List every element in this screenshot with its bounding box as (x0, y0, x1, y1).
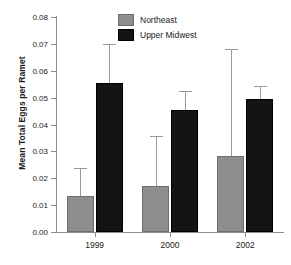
legend-item-northeast: Northeast (118, 14, 197, 26)
x-tick-label-2000: 2000 (140, 240, 200, 250)
y-tick-label: 0.02 (2, 174, 48, 183)
error-bar-cap (103, 44, 116, 45)
error-bar-cap (150, 136, 163, 137)
y-tick (51, 232, 57, 233)
x-tick-label-2002: 2002 (215, 240, 275, 250)
error-bar-cap (225, 49, 238, 50)
error-bar-line (156, 136, 157, 186)
bar-upper-midwest-1999 (96, 83, 123, 232)
y-tick-label: 0.07 (2, 39, 48, 48)
error-bar-cap (254, 86, 267, 87)
y-tick-label: 0.00 (2, 228, 48, 237)
bar-northeast-2000 (142, 186, 169, 232)
legend-item-upper-midwest: Upper Midwest (118, 29, 197, 41)
x-tick-label-1999: 1999 (65, 240, 125, 250)
bar-upper-midwest-2000 (171, 110, 198, 232)
error-bar-line (260, 86, 261, 99)
plot-area (57, 17, 283, 232)
error-bar-line (109, 44, 110, 83)
y-tick-label: 0.03 (2, 147, 48, 156)
legend-label-northeast: Northeast (140, 15, 177, 25)
bar-northeast-2002 (217, 156, 244, 232)
error-bar-line (80, 168, 81, 196)
x-tick (95, 233, 96, 237)
y-tick-label: 0.04 (2, 120, 48, 129)
y-tick-label: 0.01 (2, 201, 48, 210)
error-bar-cap (179, 91, 192, 92)
error-bar-line (185, 91, 186, 110)
error-bar-line (231, 49, 232, 156)
bar-northeast-1999 (67, 196, 94, 232)
chart-legend: Northeast Upper Midwest (118, 14, 197, 41)
legend-swatch-upper-midwest (118, 29, 134, 41)
y-tick-label: 0.08 (2, 13, 48, 22)
bar-upper-midwest-2002 (246, 99, 273, 232)
y-axis-title: Mean Total Eggs per Ramet (17, 28, 27, 198)
y-tick-label: 0.06 (2, 66, 48, 75)
legend-swatch-northeast (118, 14, 134, 26)
y-tick-label: 0.05 (2, 93, 48, 102)
error-bar-cap (74, 168, 87, 169)
x-tick (170, 233, 171, 237)
x-tick (245, 233, 246, 237)
chart-figure: Mean Total Eggs per Ramet 0.000.010.020.… (0, 0, 291, 265)
legend-label-upper-midwest: Upper Midwest (140, 30, 197, 40)
